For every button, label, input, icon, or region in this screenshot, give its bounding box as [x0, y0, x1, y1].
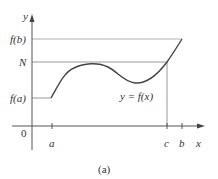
- y-tick-label-n: N: [18, 56, 27, 68]
- origin-label: 0: [21, 127, 27, 139]
- function-curve: [51, 39, 182, 98]
- x-tick-label-c: c: [164, 137, 169, 149]
- graph: y f(b) N f(a) 0 a c b x y = f(x) (a): [0, 0, 218, 179]
- y-axis-label: y: [22, 10, 28, 22]
- y-axis-arrow-icon: [30, 14, 35, 22]
- x-tick-label-a: a: [49, 137, 55, 149]
- x-tick-label-b: b: [179, 137, 185, 149]
- y-tick-label-fa: f(a): [10, 92, 26, 105]
- x-axis-arrow-icon: [197, 124, 205, 129]
- y-tick-label-fb: f(b): [10, 33, 26, 46]
- x-axis-label: x: [195, 137, 201, 149]
- intermediate-value-theorem-figure: y f(b) N f(a) 0 a c b x y = f(x) (a): [0, 0, 218, 179]
- figure-caption: (a): [98, 163, 111, 176]
- curve-label: y = f(x): [119, 90, 153, 103]
